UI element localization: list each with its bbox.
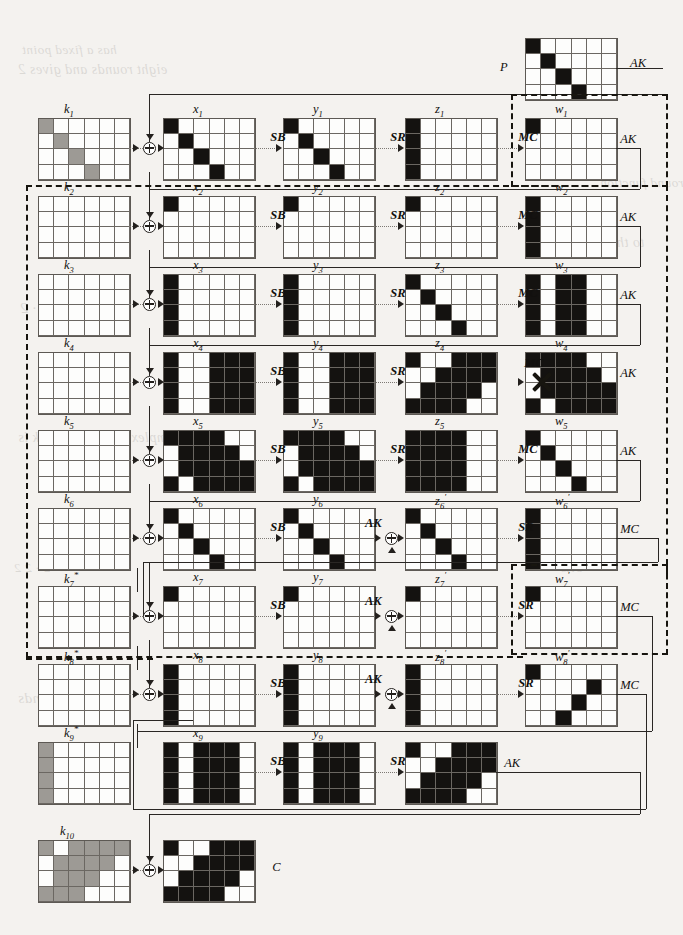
- cell: [360, 758, 375, 773]
- cell: [587, 711, 602, 726]
- cell: [179, 758, 194, 773]
- cell: [100, 887, 115, 902]
- cell: [602, 711, 617, 726]
- cell: [284, 149, 299, 164]
- cell: [54, 119, 69, 134]
- cell: [69, 149, 84, 164]
- cell: [179, 665, 194, 680]
- cell: [421, 711, 436, 726]
- cell: [69, 165, 84, 180]
- cell: [100, 789, 115, 804]
- arrow-sr: [398, 144, 404, 152]
- cell: [39, 841, 54, 856]
- cell: [406, 134, 421, 149]
- cell: [54, 680, 69, 695]
- cell: [164, 711, 179, 726]
- cell: [85, 773, 100, 788]
- cell: [69, 887, 84, 902]
- cell: [240, 134, 255, 149]
- cell: [284, 119, 299, 134]
- cell: [225, 871, 240, 886]
- state-grid-k1: [38, 118, 131, 181]
- cell: [85, 789, 100, 804]
- cell: [100, 665, 115, 680]
- wire-w8-down: [646, 694, 647, 808]
- cell: [587, 69, 602, 84]
- cell: [39, 119, 54, 134]
- cell: [436, 789, 451, 804]
- cell: [210, 743, 225, 758]
- cell: [330, 119, 345, 134]
- cell: [345, 119, 360, 134]
- cell: [360, 119, 375, 134]
- cell: [314, 165, 329, 180]
- cell: [210, 680, 225, 695]
- cell: [587, 680, 602, 695]
- cell: [210, 841, 225, 856]
- cell: [85, 887, 100, 902]
- cell: [314, 711, 329, 726]
- cell: [436, 773, 451, 788]
- cell: [482, 773, 497, 788]
- cell: [284, 134, 299, 149]
- cell: [284, 711, 299, 726]
- cell: [115, 887, 130, 902]
- cell: [406, 695, 421, 710]
- cell: [164, 789, 179, 804]
- op-sb-1: SB: [270, 130, 285, 145]
- state-grid-w8: [525, 664, 618, 727]
- cell: [225, 773, 240, 788]
- label-k9: k9*: [64, 724, 78, 743]
- cell: [115, 134, 130, 149]
- cell: [406, 789, 421, 804]
- cell: [69, 871, 84, 886]
- cell: [210, 149, 225, 164]
- flow-dotted-line: [254, 148, 277, 149]
- cell: [210, 119, 225, 134]
- cell: [467, 119, 482, 134]
- cell: [406, 119, 421, 134]
- cell: [115, 165, 130, 180]
- cell: [85, 841, 100, 856]
- cell: [541, 39, 556, 54]
- flow-dotted-line: [374, 772, 399, 773]
- cell: [115, 743, 130, 758]
- cell: [406, 165, 421, 180]
- cell: [39, 711, 54, 726]
- cell: [299, 165, 314, 180]
- cell: [54, 856, 69, 871]
- cell: [421, 789, 436, 804]
- cell: [345, 665, 360, 680]
- cell: [69, 758, 84, 773]
- cell: [54, 887, 69, 902]
- cell: [54, 743, 69, 758]
- arrow-ak-to-z: [398, 690, 404, 698]
- label-k10: k10: [60, 824, 74, 841]
- cell: [436, 119, 451, 134]
- cell: [284, 758, 299, 773]
- cell: [225, 165, 240, 180]
- cell: [360, 695, 375, 710]
- cell: [100, 871, 115, 886]
- cell: [100, 680, 115, 695]
- arrow-sb: [276, 690, 282, 698]
- cell: [467, 665, 482, 680]
- op-sr-9: SR: [390, 754, 405, 769]
- cell: [225, 789, 240, 804]
- cell: [421, 743, 436, 758]
- cell: [240, 871, 255, 886]
- cell: [556, 680, 571, 695]
- cell: [406, 773, 421, 788]
- cell: [164, 665, 179, 680]
- cell: [421, 773, 436, 788]
- cell: [240, 665, 255, 680]
- cell: [602, 665, 617, 680]
- cell: [360, 149, 375, 164]
- cell: [406, 680, 421, 695]
- cell: [39, 695, 54, 710]
- cell: [115, 871, 130, 886]
- cell: [572, 665, 587, 680]
- op-sr-8: SR: [518, 676, 533, 691]
- cell: [541, 680, 556, 695]
- label-x1: x1: [193, 102, 203, 119]
